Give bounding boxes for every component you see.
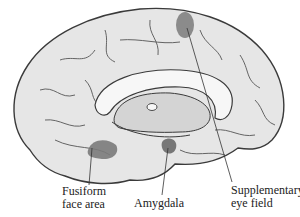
label-amygdala-line1: Amygdala [134, 197, 184, 210]
label-fusiform-line2: face area [62, 198, 106, 211]
label-sef: Supplementary eye field [231, 184, 300, 210]
sef-region [176, 12, 194, 38]
label-sef-line2: eye field [231, 197, 300, 210]
label-amygdala: Amygdala [134, 197, 184, 210]
interthalamic-adhesion [147, 104, 157, 111]
label-fusiform: Fusiform face area [62, 185, 106, 211]
